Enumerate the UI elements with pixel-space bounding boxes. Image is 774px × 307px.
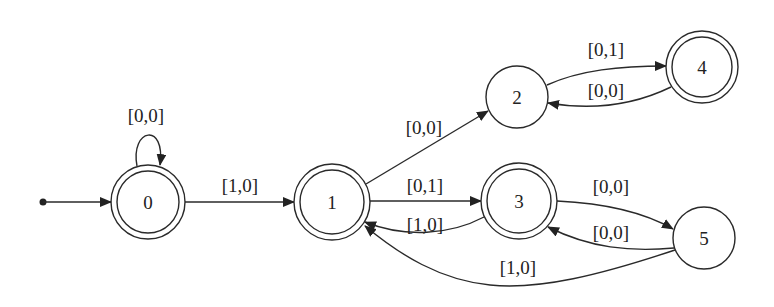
state-0: 0 (111, 165, 185, 239)
state-3: 3 (481, 163, 557, 239)
edge-label: [0,0] (593, 222, 629, 243)
edge-1-to-2: [0,0] (366, 111, 488, 184)
edge-1-to-3: [0,1] (370, 175, 481, 201)
state-label: 2 (512, 87, 522, 108)
edge-label: [0,0] (593, 176, 629, 197)
state-label: 3 (514, 191, 524, 212)
state-2: 2 (486, 66, 548, 128)
edges-layer: [0,0][1,0][0,0][0,1][0,0][0,1][1,0][0,0]… (128, 39, 675, 286)
edge-label: [1,0] (500, 257, 536, 278)
state-label: 5 (699, 228, 709, 249)
edge-5-to-3: [0,0] (548, 222, 674, 249)
state-label: 0 (143, 192, 153, 213)
edge-label: [0,0] (128, 105, 164, 126)
edge-arrow (136, 135, 161, 166)
state-label: 4 (697, 57, 707, 78)
edge-label: [0,1] (588, 39, 624, 60)
state-label: 1 (327, 192, 337, 213)
edge-2-to-4: [0,1] (547, 39, 666, 85)
state-4: 4 (666, 31, 738, 103)
edge-0-to-0: [0,0] (128, 105, 164, 166)
edge-label: [1,0] (222, 175, 258, 196)
edge-4-to-2: [0,0] (548, 80, 671, 106)
start-indicator (40, 199, 112, 206)
edge-label: [0,1] (407, 175, 443, 196)
edge-label: [1,0] (407, 214, 443, 235)
edge-label: [0,0] (588, 80, 624, 101)
edge-0-to-1: [1,0] (185, 175, 294, 202)
automaton-diagram: [0,0][1,0][0,0][0,1][0,0][0,1][1,0][0,0]… (0, 0, 774, 307)
state-5: 5 (673, 207, 735, 269)
edge-label: [0,0] (406, 117, 442, 138)
state-1: 1 (294, 164, 370, 240)
edge-3-to-1: [1,0] (365, 214, 484, 235)
